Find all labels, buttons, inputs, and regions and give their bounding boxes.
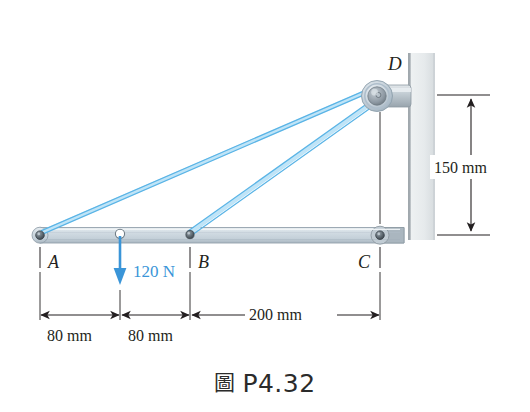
dimension-80mm-a-to-load: 80 mm [41,315,119,344]
dimension-label-150mm: 150 mm [434,159,487,176]
cable-a-to-d [42,90,368,235]
mechanics-diagram: 120 N A B C D 80 mm 80 mm [0,0,530,412]
dimension-label-80mm-1: 80 mm [47,327,92,344]
pin-joint-c [376,231,385,240]
figure-caption: 圖 P4.32 [0,362,530,404]
beam-abc [32,226,404,244]
force-label-120n: 120 N [133,262,175,281]
figure-p4-32: 120 N A B C D 80 mm 80 mm [0,0,530,412]
pin-joint-a [36,231,45,240]
point-label-c: C [358,252,371,272]
figure-caption-text: P4.32 [242,369,315,398]
point-label-d: D [387,53,402,74]
point-label-a: A [47,252,60,272]
pin-joint-b [186,231,194,239]
wall [408,53,435,240]
label-ticks [40,247,380,268]
cable-b-to-d [188,101,374,235]
figure-cjk-glyph: 圖 [214,373,235,394]
dimension-150mm: 150 mm [430,95,512,235]
dimension-80mm-load-to-b: 80 mm [122,315,189,344]
pulley-at-d [362,81,393,112]
dimension-200mm-b-to-c: 200 mm [192,303,379,325]
dimension-label-80mm-2: 80 mm [128,327,173,344]
point-label-b: B [198,252,209,272]
dimension-label-200mm: 200 mm [249,306,302,323]
